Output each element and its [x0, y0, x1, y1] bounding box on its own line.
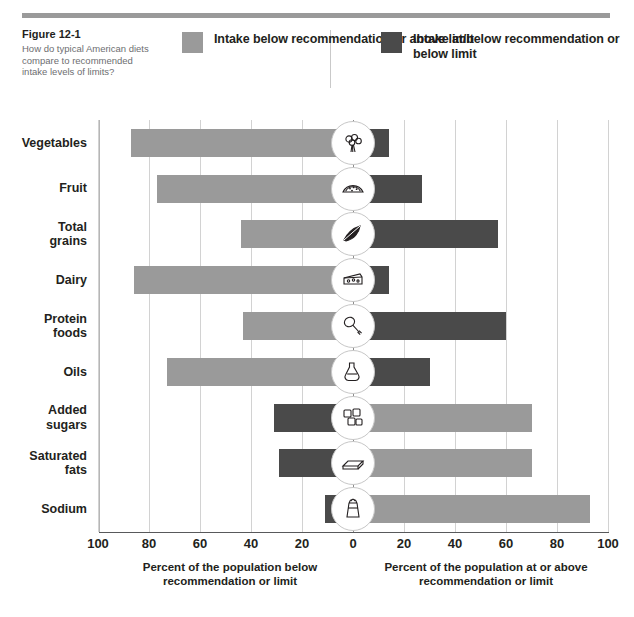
legend-label-dark: Intake at/below recommendation or below …: [413, 32, 634, 62]
oil-bottle-icon: [331, 350, 375, 394]
figure-question: How do typical American diets compare to…: [22, 43, 157, 78]
x-tick-label: 60: [193, 536, 207, 551]
x-axis-tick-labels: 10080604020020406080100: [99, 536, 609, 556]
bar-row[interactable]: [99, 395, 609, 441]
bar-row[interactable]: [99, 486, 609, 532]
bar-row[interactable]: [99, 166, 609, 212]
bar-segment-light[interactable]: [353, 495, 590, 523]
bar-segment-light[interactable]: [131, 129, 353, 157]
bar-segment-dark[interactable]: [353, 312, 506, 340]
bar-row[interactable]: [99, 212, 609, 258]
bar-row[interactable]: [99, 440, 609, 486]
category-label-oils: Oils: [0, 365, 87, 380]
bar-segment-light[interactable]: [167, 358, 353, 386]
x-tick-label: 40: [448, 536, 462, 551]
x-tick-label: 0: [349, 536, 356, 551]
x-axis-caption-left: Percent of the population below recommen…: [105, 560, 355, 588]
top-rule: [22, 13, 610, 18]
category-label-total-grains: Totalgrains: [0, 220, 87, 249]
category-label-sodium: Sodium: [0, 502, 87, 517]
category-label-added-sugars: Addedsugars: [0, 403, 87, 432]
bar-segment-light[interactable]: [353, 449, 532, 477]
category-label-vegetables: Vegetables: [0, 136, 87, 151]
watermelon-icon: [331, 167, 375, 211]
bar-segment-light[interactable]: [134, 266, 353, 294]
category-label-saturated-fats: Saturatedfats: [0, 449, 87, 478]
sugar-cubes-icon: [331, 396, 375, 440]
legend-entry-at-below-recommendation: Intake at/below recommendation or below …: [381, 32, 634, 62]
x-tick-label: 80: [550, 536, 564, 551]
x-tick-label: 100: [597, 536, 619, 551]
legend-swatch-light: [182, 32, 203, 53]
bar-segment-light[interactable]: [353, 404, 532, 432]
x-tick-label: 40: [244, 536, 258, 551]
x-tick-label: 80: [142, 536, 156, 551]
figure-caption: Figure 12-1 How do typical American diet…: [22, 28, 157, 78]
category-labels: VegetablesFruitTotalgrainsDairyProteinfo…: [0, 120, 87, 532]
category-label-protein-foods: Proteinfoods: [0, 312, 87, 341]
bar-row[interactable]: [99, 120, 609, 166]
bar-row[interactable]: [99, 349, 609, 395]
x-tick-label: 100: [87, 536, 109, 551]
broccoli-icon: [331, 121, 375, 165]
bar-row[interactable]: [99, 303, 609, 349]
drumstick-icon: [331, 304, 375, 348]
bar-segment-light[interactable]: [157, 175, 353, 203]
cheese-icon: [331, 258, 375, 302]
figure-number: Figure 12-1: [22, 28, 157, 41]
salt-shaker-icon: [331, 487, 375, 531]
bar-row[interactable]: [99, 257, 609, 303]
x-tick-label: 60: [499, 536, 513, 551]
x-axis-line: [99, 532, 609, 533]
legend-swatch-dark: [381, 32, 402, 53]
category-label-dairy: Dairy: [0, 273, 87, 288]
category-label-fruit: Fruit: [0, 181, 87, 196]
butter-icon: [331, 441, 375, 485]
x-axis-caption-right: Percent of the population at or above re…: [361, 560, 611, 588]
x-tick-label: 20: [397, 536, 411, 551]
grain-icon: [331, 212, 375, 256]
x-tick-label: 20: [295, 536, 309, 551]
chart-plot-area: VegetablesFruitTotalgrainsDairyProteinfo…: [99, 120, 609, 532]
